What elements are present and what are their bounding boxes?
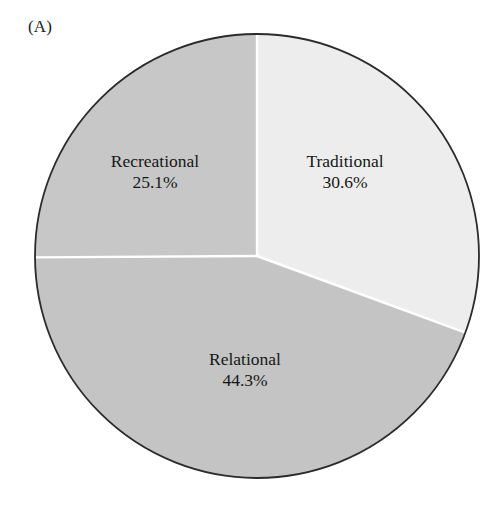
divider-left [35,256,257,257]
pie-chart [0,0,489,512]
pie-slice-recreational[interactable] [35,34,257,257]
figure-root: (A) Recreational 25.1% Traditional 30.6%… [0,0,489,512]
